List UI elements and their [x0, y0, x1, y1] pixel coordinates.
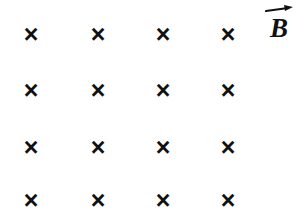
field-x-mark: × [221, 76, 236, 104]
field-x-mark: × [156, 20, 171, 48]
field-x-mark: × [91, 20, 106, 48]
field-x-mark: × [91, 186, 106, 214]
field-vector-letter: B [257, 14, 301, 42]
field-x-mark: × [91, 133, 106, 161]
field-x-mark: × [24, 76, 39, 104]
field-x-mark: × [24, 20, 39, 48]
field-x-mark: × [156, 186, 171, 214]
physics-figure: × × × × × × × × × × × × × × × × B [0, 0, 306, 223]
field-x-mark: × [156, 76, 171, 104]
field-x-mark: × [24, 186, 39, 214]
field-x-mark: × [91, 76, 106, 104]
field-x-mark: × [24, 133, 39, 161]
field-x-mark: × [156, 133, 171, 161]
field-x-mark: × [221, 20, 236, 48]
field-x-mark: × [221, 133, 236, 161]
magnetic-field-vector-label: B [257, 4, 301, 50]
field-x-mark: × [221, 186, 236, 214]
